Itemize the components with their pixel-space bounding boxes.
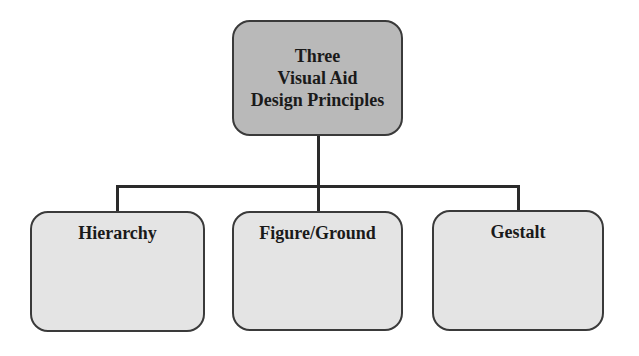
root-stem-connector [317, 135, 320, 187]
child-node-figure-ground: Figure/Ground [232, 211, 403, 331]
root-line-1: Three [295, 45, 341, 67]
child-node-gestalt: Gestalt [432, 210, 604, 331]
child-node-hierarchy: Hierarchy [30, 211, 205, 332]
root-line-2: Visual Aid [278, 67, 358, 89]
middle-stem-connector [317, 185, 320, 212]
left-stem-connector [116, 185, 119, 212]
right-stem-connector [517, 185, 520, 211]
child-label: Gestalt [491, 222, 546, 242]
child-label: Figure/Ground [259, 223, 375, 243]
root-line-3: Design Principles [251, 89, 385, 111]
child-label: Hierarchy [78, 223, 157, 243]
root-node: Three Visual Aid Design Principles [232, 20, 403, 136]
